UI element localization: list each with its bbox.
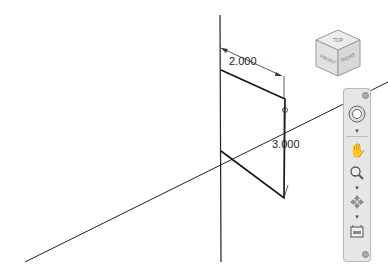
navbar-close-icon[interactable] <box>362 92 369 99</box>
hand-icon: ✋ <box>349 142 366 158</box>
orbit-button[interactable] <box>347 193 367 211</box>
diagonal-axis-line <box>25 82 388 262</box>
chevron-down-icon[interactable]: ▼ <box>354 214 360 220</box>
navbar-options-icon[interactable] <box>362 251 369 258</box>
steering-wheel-button[interactable] <box>347 103 367 125</box>
arrowhead <box>275 72 282 76</box>
navigation-bar: ▼ ✋ ▼ ▼ <box>343 88 371 262</box>
orbit-icon <box>349 194 365 210</box>
arrowhead <box>221 48 228 53</box>
chevron-down-icon[interactable]: ▼ <box>354 185 360 191</box>
steering-wheel-icon <box>348 105 366 123</box>
showmotion-icon <box>349 223 365 239</box>
zoom-button[interactable] <box>347 164 367 182</box>
vertical-axis-line <box>220 15 221 262</box>
dimension-width-label[interactable]: 2.000 <box>229 55 257 67</box>
dimension-height-label[interactable]: 3.000 <box>272 138 300 150</box>
viewcube-top-label: TOP <box>333 37 344 43</box>
divider <box>346 136 368 137</box>
showmotion-button[interactable] <box>347 222 367 240</box>
viewcube[interactable]: TOP FRONT RIGHT <box>310 26 366 82</box>
chevron-down-icon[interactable]: ▼ <box>354 128 360 134</box>
zoom-icon <box>349 165 365 181</box>
rectangle-sketch <box>221 70 285 198</box>
pan-button[interactable]: ✋ <box>347 141 367 159</box>
